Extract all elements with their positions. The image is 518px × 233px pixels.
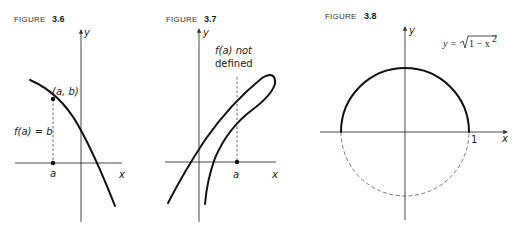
- figure-caption-number: 3.7: [204, 14, 217, 24]
- figure-caption-word: FIGURE: [166, 15, 197, 24]
- tick-label-a: a: [50, 168, 56, 179]
- tick-label-1: 1: [471, 134, 477, 145]
- equation-exponent: 2: [492, 33, 497, 44]
- figure-3-7: FIGURE 3.7 y x f(a) not defined a: [165, 14, 278, 222]
- y-axis-label: y: [83, 27, 91, 38]
- point-label: (a, b): [52, 86, 79, 97]
- function-curve: [30, 80, 115, 206]
- figure-caption-word: FIGURE: [325, 12, 356, 21]
- figure-caption-number: 3.6: [52, 14, 65, 24]
- note-line-2: defined: [215, 58, 253, 69]
- point-a: [51, 161, 55, 165]
- equation-label: y = 1 − x 2: [442, 33, 497, 49]
- equation-radicand: 1 − x: [469, 38, 490, 49]
- figure-caption-word: FIGURE: [14, 15, 45, 24]
- x-axis-label: x: [501, 133, 508, 144]
- figure-caption-number: 3.8: [364, 11, 377, 21]
- equation-lhs: y =: [442, 38, 457, 49]
- tick-label-a: a: [233, 169, 239, 180]
- note-line-1: f(a) not: [215, 45, 253, 56]
- relation-curve: [168, 75, 275, 204]
- y-axis-label: y: [202, 27, 210, 38]
- x-axis-label: x: [271, 169, 278, 180]
- figure-3-6: FIGURE 3.6 y x (a, b) f(a) = b a: [14, 14, 125, 222]
- figures-canvas: FIGURE 3.6 y x (a, b) f(a) = b a FIGURE …: [0, 0, 518, 233]
- x-axis-label: x: [118, 169, 125, 180]
- figure-3-8: FIGURE 3.8 y x 1 y = 1 − x 2: [320, 11, 508, 220]
- point-a-b: [51, 97, 55, 101]
- dashed-label: f(a) = b: [14, 126, 53, 137]
- y-axis-label: y: [408, 25, 416, 36]
- point-a: [235, 160, 239, 164]
